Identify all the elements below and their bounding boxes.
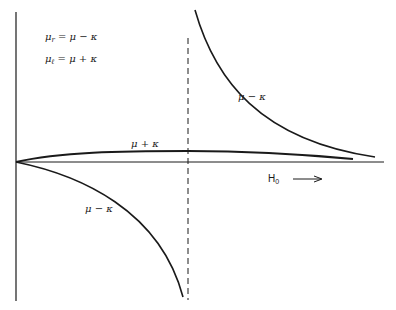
legend-mu-r-definition: = μ − κ [55, 31, 98, 42]
diagram-canvas [0, 0, 396, 310]
curve-mu-minus-kappa-upper [195, 10, 375, 157]
curve-mu-plus-kappa [16, 151, 353, 162]
legend-mu-r: μr = μ − κ [45, 32, 97, 44]
legend-mu-l-definition: = μ + κ [54, 53, 97, 64]
permeability-diagram: μr = μ − κ μℓ = μ + κ μ − κ μ + κ μ − κ … [0, 0, 396, 310]
curve-mu-minus-kappa-lower [16, 162, 183, 297]
legend-mu-l: μℓ = μ + κ [45, 54, 97, 66]
label-mu-plus-kappa: μ + κ [131, 139, 159, 149]
label-upper-mu-minus-kappa: μ − κ [238, 92, 266, 102]
x-axis-label-subscript: 0 [275, 178, 279, 185]
x-axis-label: H0 [268, 174, 279, 185]
label-lower-mu-minus-kappa: μ − κ [85, 204, 113, 214]
